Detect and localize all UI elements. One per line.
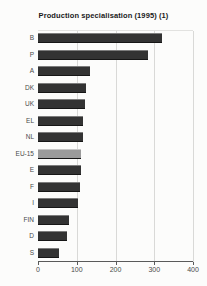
bar-row-E: E	[2, 162, 193, 179]
category-label-D: D	[2, 233, 38, 240]
bar-track-E	[38, 165, 193, 175]
bar-row-P: P	[2, 47, 193, 64]
x-tick-label-300: 300	[148, 266, 160, 273]
gridline-400	[193, 31, 194, 262]
category-label-I: I	[2, 200, 38, 207]
category-label-EU-15: EU-15	[2, 151, 38, 158]
bar-DK	[38, 83, 86, 93]
bar-track-EL	[38, 116, 193, 126]
x-tick-0	[38, 262, 39, 265]
bar-NL	[38, 132, 83, 142]
bar-track-EU-15	[38, 149, 193, 159]
category-label-NL: NL	[2, 134, 38, 141]
chart-page: Production specialisation (1995) (1) BPA…	[0, 0, 207, 286]
category-label-EL: EL	[2, 118, 38, 125]
category-label-DK: DK	[2, 85, 38, 92]
bar-track-DK	[38, 83, 193, 93]
bar-row-I: I	[2, 195, 193, 212]
bar-track-S	[38, 248, 193, 258]
category-label-F: F	[2, 184, 38, 191]
bar-track-NL	[38, 132, 193, 142]
bar-chart: BPADKUKELNLEU-15EFIFINDS 0100200300400	[2, 30, 193, 276]
x-axis: 0100200300400	[38, 261, 193, 276]
bar-track-D	[38, 231, 193, 241]
bar-row-EU-15: EU-15	[2, 146, 193, 163]
bar-E	[38, 165, 81, 175]
x-tick-400	[193, 262, 194, 265]
x-tick-label-200: 200	[110, 266, 122, 273]
bar-row-FIN: FIN	[2, 212, 193, 229]
bar-F	[38, 182, 80, 192]
bar-D	[38, 231, 67, 241]
plot-area: BPADKUKELNLEU-15EFIFINDS	[2, 30, 193, 261]
bar-EU-15	[38, 149, 81, 159]
bar-row-DK: DK	[2, 80, 193, 97]
bar-EL	[38, 116, 83, 126]
bar-row-A: A	[2, 63, 193, 80]
chart-title: Production specialisation (1995) (1)	[0, 11, 207, 20]
bar-row-EL: EL	[2, 113, 193, 130]
x-tick-label-100: 100	[71, 266, 83, 273]
category-label-FIN: FIN	[2, 217, 38, 224]
bar-A	[38, 66, 90, 76]
x-tick-label-0: 0	[36, 266, 40, 273]
bar-FIN	[38, 215, 69, 225]
bar-row-B: B	[2, 30, 193, 47]
bar-S	[38, 248, 59, 258]
x-tick-label-400: 400	[187, 266, 199, 273]
bar-UK	[38, 99, 85, 109]
bar-track-P	[38, 50, 193, 60]
category-label-UK: UK	[2, 101, 38, 108]
bar-row-D: D	[2, 228, 193, 245]
bar-row-F: F	[2, 179, 193, 196]
bar-track-F	[38, 182, 193, 192]
bar-P	[38, 50, 148, 60]
category-label-A: A	[2, 68, 38, 75]
x-tick-200	[116, 262, 117, 265]
x-tick-300	[154, 262, 155, 265]
x-tick-100	[77, 262, 78, 265]
bar-row-NL: NL	[2, 129, 193, 146]
bar-track-A	[38, 66, 193, 76]
bar-row-S: S	[2, 245, 193, 262]
bar-track-UK	[38, 99, 193, 109]
bar-row-UK: UK	[2, 96, 193, 113]
category-label-S: S	[2, 250, 38, 257]
bar-track-B	[38, 33, 193, 43]
category-label-P: P	[2, 52, 38, 59]
category-label-E: E	[2, 167, 38, 174]
category-label-B: B	[2, 35, 38, 42]
bar-I	[38, 198, 78, 208]
bar-track-FIN	[38, 215, 193, 225]
bar-track-I	[38, 198, 193, 208]
bar-B	[38, 33, 162, 43]
